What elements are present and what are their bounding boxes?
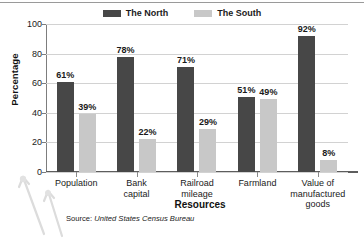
legend-swatch-the-north — [103, 10, 121, 17]
bar-group: 51%49% — [227, 24, 287, 172]
bar-value-label: 29% — [199, 118, 217, 127]
source-label: Source: — [66, 214, 92, 223]
bar-group: 92%8% — [288, 24, 348, 172]
x-tick-mark — [318, 172, 319, 177]
legend-label-the-south: The South — [217, 9, 261, 18]
bar-chart-figure: The North The South Percentage 020406080… — [0, 0, 364, 238]
y-tick-label-80: 80 — [14, 49, 42, 59]
bar-the-south[interactable]: 22% — [139, 139, 156, 172]
legend-entry-the-south: The South — [194, 9, 261, 18]
x-tick-mark — [137, 172, 138, 177]
legend-entry-the-north: The North — [103, 9, 169, 18]
bar-the-south[interactable]: 49% — [260, 99, 277, 172]
bar-the-south[interactable]: 39% — [79, 114, 96, 172]
y-tick-label-100: 100 — [14, 19, 42, 29]
bar-value-label: 8% — [322, 149, 335, 158]
top-divider-rule — [0, 2, 364, 3]
bar-the-north[interactable]: 51% — [238, 97, 255, 172]
bar-value-label: 78% — [117, 46, 135, 55]
legend-swatch-the-south — [194, 10, 212, 17]
y-tick-label-60: 60 — [14, 78, 42, 88]
x-axis-title: Resources — [40, 199, 360, 210]
bar-the-north[interactable]: 71% — [177, 67, 194, 172]
bar-value-label: 92% — [298, 25, 316, 34]
x-tick-mark — [197, 172, 198, 177]
legend-label-the-north: The North — [126, 9, 169, 18]
bar-the-north[interactable]: 78% — [117, 57, 134, 172]
bar-value-label: 49% — [259, 88, 277, 97]
bar-the-south[interactable]: 8% — [320, 160, 337, 172]
bar-value-label: 51% — [237, 86, 255, 95]
bar-group: 78%22% — [106, 24, 166, 172]
x-tick-mark — [257, 172, 258, 177]
x-tick-mark — [76, 172, 77, 177]
bar-value-label: 39% — [78, 103, 96, 112]
y-tick-label-20: 20 — [14, 137, 42, 147]
bar-the-south[interactable]: 29% — [199, 129, 216, 172]
plot-area: 02040608010061%39%Population78%22%Bankca… — [46, 24, 348, 172]
chart-legend: The North The South — [0, 9, 364, 18]
bar-group: 61%39% — [46, 24, 106, 172]
bar-value-label: 61% — [56, 71, 74, 80]
y-tick-mark-0 — [42, 172, 46, 173]
y-tick-label-0: 0 — [14, 167, 42, 177]
bar-the-north[interactable]: 92% — [298, 36, 315, 172]
bar-value-label: 22% — [139, 128, 157, 137]
bar-group: 71%29% — [167, 24, 227, 172]
source-value: United States Census Bureau — [94, 214, 194, 223]
bar-the-north[interactable]: 61% — [57, 82, 74, 172]
bar-value-label: 71% — [177, 56, 195, 65]
source-note: Source: United States Census Bureau — [66, 214, 194, 223]
y-tick-label-40: 40 — [14, 108, 42, 118]
